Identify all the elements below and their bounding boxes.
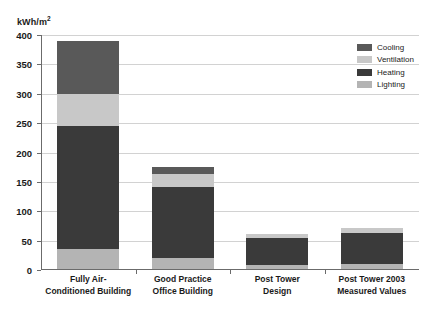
y-axis-tick-label: 300 (16, 88, 32, 99)
bar-segment-lighting[interactable] (57, 249, 119, 270)
category-label-line: Design (230, 286, 325, 298)
y-axis-tick-label: 150 (16, 176, 32, 187)
legend-item[interactable]: Ventilation (357, 54, 429, 67)
category-label-line: Conditioned Building (41, 286, 136, 298)
legend-label: Ventilation (377, 55, 414, 64)
legend-swatch (357, 81, 372, 88)
bar-group[interactable] (246, 35, 308, 270)
y-axis-tick-label: 200 (16, 147, 32, 158)
bar-group[interactable] (152, 35, 214, 270)
category-label: Good PracticeOffice Building (136, 274, 231, 297)
bar-segment-heating[interactable] (246, 238, 308, 266)
x-axis-line (41, 269, 419, 270)
legend-swatch (357, 56, 372, 63)
bar-segment-ventilation[interactable] (246, 234, 308, 238)
legend-swatch (357, 44, 372, 51)
legend-label: Heating (377, 68, 405, 77)
y-axis-tick-label: 100 (16, 206, 32, 217)
y-axis-tick-label: 250 (16, 118, 32, 129)
chart-legend: CoolingVentilationHeatingLighting (357, 41, 429, 91)
y-axis-tick-labels: 050100150200250300350400 (0, 35, 32, 270)
bar-segment-heating[interactable] (57, 126, 119, 249)
bar-segment-heating[interactable] (341, 233, 403, 264)
category-label: Post Tower 2003Measured Values (325, 274, 420, 297)
y-axis-title-superscript: 2 (47, 15, 51, 22)
legend-swatch (357, 69, 372, 76)
x-axis-category-labels: Fully Air-Conditioned BuildingGood Pract… (41, 274, 419, 308)
stacked-bar-chart: kWh/m2 050100150200250300350400 Fully Ai… (0, 0, 430, 312)
bar-segment-cooling[interactable] (57, 41, 119, 94)
category-label-line: Measured Values (325, 286, 420, 298)
y-axis-tick-label: 400 (16, 30, 32, 41)
category-label-line: Post Tower 2003 (325, 274, 420, 286)
bar-segment-ventilation[interactable] (57, 94, 119, 126)
legend-item[interactable]: Lighting (357, 79, 429, 92)
category-label-line: Office Building (136, 286, 231, 298)
y-axis-line (41, 35, 42, 270)
legend-label: Cooling (377, 43, 404, 52)
bar-segment-cooling[interactable] (152, 167, 214, 174)
y-axis-tick-label: 0 (27, 265, 32, 276)
bar-segment-heating[interactable] (152, 187, 214, 258)
category-label-line: Good Practice (136, 274, 231, 286)
bar-group[interactable] (57, 35, 119, 270)
y-axis-title-text: kWh/m (17, 17, 47, 27)
legend-item[interactable]: Heating (357, 66, 429, 79)
category-label-line: Post Tower (230, 274, 325, 286)
y-axis-tick-label: 350 (16, 59, 32, 70)
bar-segment-ventilation[interactable] (341, 228, 403, 233)
y-axis-tick-label: 50 (21, 235, 32, 246)
y-axis-title: kWh/m2 (17, 17, 51, 27)
category-label: Post TowerDesign (230, 274, 325, 297)
y-axis-tick (37, 270, 41, 271)
legend-item[interactable]: Cooling (357, 41, 429, 54)
bar-segment-ventilation[interactable] (152, 174, 214, 187)
legend-label: Lighting (377, 80, 405, 89)
category-label-line: Fully Air- (41, 274, 136, 286)
category-label: Fully Air-Conditioned Building (41, 274, 136, 297)
